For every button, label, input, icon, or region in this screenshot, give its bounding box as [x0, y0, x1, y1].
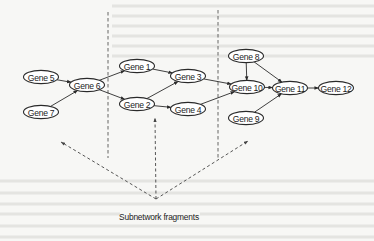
node-label: Gene 2: [124, 100, 151, 110]
node-label: Gene 9: [233, 114, 260, 124]
node-label: Gene 12: [321, 84, 352, 94]
gene-node-g5: Gene 5: [24, 70, 59, 83]
edge-g2-to-g4: [154, 106, 171, 108]
edge-g6-to-g1: [99, 71, 124, 81]
fragment-pointer-1: [61, 142, 156, 199]
gene-node-g4: Gene 4: [171, 102, 206, 115]
gene-node-g8: Gene 8: [229, 49, 264, 62]
gene-node-g1: Gene 1: [120, 59, 155, 72]
scan-bleed-through: [0, 6, 374, 237]
gene-node-g9: Gene 9: [229, 111, 264, 124]
gene-node-g2: Gene 2: [120, 97, 155, 110]
node-label: Gene 8: [233, 52, 260, 62]
edge-g2-to-g3: [147, 81, 178, 98]
node-label: Gene 1: [124, 62, 151, 72]
fragment-pointers: [61, 118, 248, 199]
edge-g6-to-g2: [99, 90, 124, 100]
edge-g4-to-g10: [200, 92, 234, 105]
node-label: Gene 4: [175, 105, 202, 115]
edge-g8-to-g10: [246, 63, 247, 81]
gene-nodes: Gene 5Gene 7Gene 6Gene 1Gene 2Gene 3Gene…: [24, 49, 354, 124]
fragment-pointer-3: [156, 141, 248, 199]
subnetwork-diagram: Gene 5Gene 7Gene 6Gene 1Gene 2Gene 3Gene…: [0, 0, 374, 241]
node-label: Gene 10: [232, 83, 263, 93]
gene-node-g7: Gene 7: [24, 105, 59, 118]
fragment-pointer-2: [155, 118, 156, 199]
edge-g7-to-g6: [50, 91, 77, 107]
gene-node-g12: Gene 12: [319, 81, 354, 94]
node-label: Gene 3: [175, 72, 202, 82]
edge-g9-to-g11: [254, 94, 281, 112]
gene-node-g11: Gene 11: [273, 81, 308, 94]
subnetwork-fragments-label: Subnetwork fragments: [119, 212, 199, 222]
fragment-dividers: [108, 10, 218, 158]
node-label: Gene 5: [28, 73, 55, 83]
gene-node-g6: Gene 6: [70, 78, 105, 91]
gene-node-g10: Gene 10: [230, 80, 265, 93]
node-label: Gene 7: [28, 108, 55, 118]
edge-g5-to-g6: [57, 80, 71, 82]
edge-g8-to-g11: [254, 62, 282, 82]
node-label: Gene 11: [275, 84, 306, 94]
gene-node-g3: Gene 3: [171, 69, 206, 82]
node-label: Gene 6: [74, 81, 101, 91]
edge-g1-to-g3: [153, 69, 173, 73]
edge-g3-to-g10: [204, 79, 232, 84]
